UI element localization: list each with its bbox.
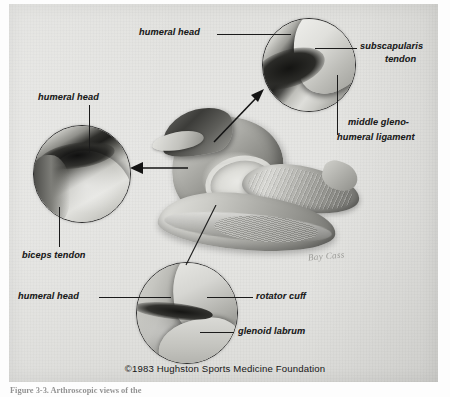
copyright-line: ©1983 Hughston Sports Medicine Foundatio… (0, 363, 450, 374)
label-rotator-cuff: rotator cuff (256, 291, 306, 303)
leader-humeral-head-top (217, 34, 291, 35)
label-subscapularis-tendon-line2: tendon (385, 54, 416, 66)
label-humeral-head-left: humeral head (38, 92, 99, 104)
label-humeral-head-top: humeral head (139, 27, 200, 39)
leader-humeral-head-left (89, 105, 90, 153)
scope-left-biceps-tendon-shape (33, 155, 70, 223)
leader-glenoid-labrum (200, 332, 234, 333)
leader-middle-glenohumeral-ligament (337, 75, 338, 135)
leader-subscapularis-tendon (315, 48, 357, 49)
label-middle-glenohumeral-line2: humeral ligament (337, 132, 415, 144)
inset-scope-top-right (262, 18, 356, 112)
arrow-center-to-top-scope (208, 86, 270, 148)
leader-biceps-tendon (59, 207, 60, 247)
leader-humeral-head-bottom (99, 297, 171, 298)
connector-center-to-bottom-scope (180, 205, 220, 267)
figure-page: humeral head subscapularis tendon middle… (0, 0, 450, 397)
label-biceps-tendon: biceps tendon (22, 250, 86, 262)
figure-caption-text: Figure 3-3. Arthroscopic views of the (10, 386, 440, 396)
label-glenoid-labrum: glenoid labrum (238, 326, 305, 338)
label-subscapularis-tendon-line1: subscapularis (360, 41, 423, 53)
inset-scope-left (33, 125, 131, 223)
arrow-center-to-left-scope (126, 158, 192, 180)
label-middle-glenohumeral-line1: middle gleno- (348, 117, 409, 129)
leader-rotator-cuff (207, 297, 253, 298)
figure-caption-cropped: Figure 3-3. Arthroscopic views of the (10, 386, 440, 397)
label-humeral-head-bottom: humeral head (18, 291, 79, 303)
inset-scope-bottom (136, 262, 238, 364)
